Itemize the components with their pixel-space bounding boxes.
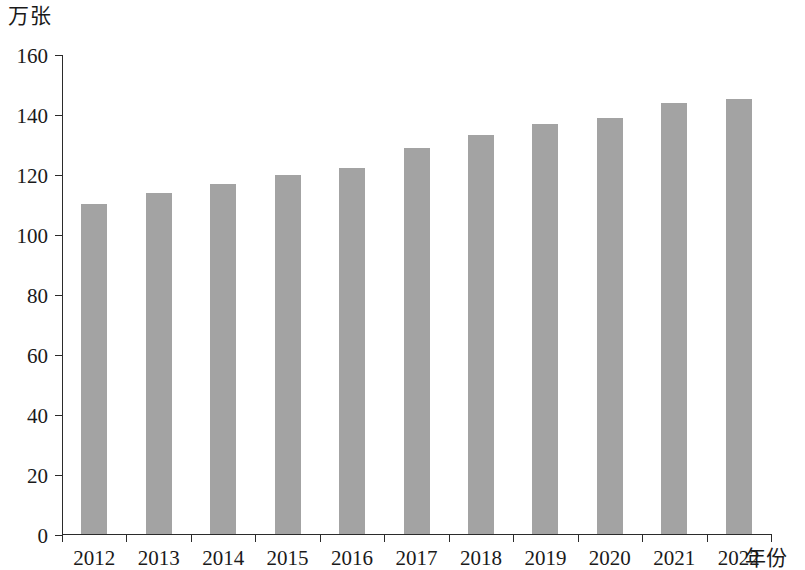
x-axis-tick — [707, 535, 708, 542]
x-axis-tick — [255, 535, 256, 542]
y-axis-tick-label: 140 — [17, 105, 49, 126]
x-axis-tick — [126, 535, 127, 542]
bar-2015 — [275, 175, 301, 534]
x-axis-tick — [62, 535, 63, 542]
bar-chart: 万张 020406080100120140160 201220132014201… — [0, 0, 805, 570]
bar-2014 — [210, 184, 236, 534]
y-axis-tick-label: 100 — [17, 225, 49, 246]
x-axis-label-2021: 2021 — [653, 548, 695, 569]
bar-2012 — [81, 204, 107, 534]
y-axis-unit-label: 万张 — [8, 6, 51, 27]
bar-2017 — [404, 148, 430, 534]
bar-2013 — [146, 193, 172, 534]
x-axis-label-2020: 2020 — [589, 548, 631, 569]
x-axis-label-2014: 2014 — [202, 548, 244, 569]
y-axis-tick: 40 — [55, 415, 62, 416]
x-axis-label-2015: 2015 — [267, 548, 309, 569]
y-axis-tick: 160 — [55, 55, 62, 56]
y-axis-tick-label: 60 — [27, 345, 48, 366]
x-axis-tick — [642, 535, 643, 542]
x-axis-label-2019: 2019 — [524, 548, 566, 569]
y-axis-tick: 0 — [55, 535, 62, 536]
y-axis-line — [62, 55, 63, 536]
bar-2020 — [597, 118, 623, 534]
y-axis-tick-label: 20 — [27, 465, 48, 486]
y-axis-tick: 60 — [55, 355, 62, 356]
x-axis-title-label: 年份 — [745, 548, 787, 569]
x-axis-tick — [191, 535, 192, 542]
x-axis-label-2018: 2018 — [460, 548, 502, 569]
x-axis-tick — [384, 535, 385, 542]
x-axis-tick — [771, 535, 772, 542]
bar-2021 — [661, 103, 687, 534]
bar-2018 — [468, 135, 494, 534]
y-axis-tick-label: 0 — [38, 525, 49, 546]
x-axis-line — [62, 534, 772, 535]
y-axis-tick: 80 — [55, 295, 62, 296]
bar-2016 — [339, 168, 365, 534]
y-axis-tick-label: 40 — [27, 405, 48, 426]
y-axis-tick-label: 160 — [17, 45, 49, 66]
y-axis-tick-label: 80 — [27, 285, 48, 306]
y-axis-tick: 100 — [55, 235, 62, 236]
x-axis-tick — [320, 535, 321, 542]
y-axis-tick-label: 120 — [17, 165, 49, 186]
x-axis-label-2012: 2012 — [73, 548, 115, 569]
x-axis-tick — [513, 535, 514, 542]
bar-2022 — [726, 99, 752, 534]
x-axis-label-2016: 2016 — [331, 548, 373, 569]
x-axis-label-2013: 2013 — [138, 548, 180, 569]
y-axis-tick: 20 — [55, 475, 62, 476]
x-axis-tick — [449, 535, 450, 542]
y-axis-tick: 120 — [55, 175, 62, 176]
x-axis-tick — [578, 535, 579, 542]
y-axis-tick: 140 — [55, 115, 62, 116]
x-axis-label-2017: 2017 — [396, 548, 438, 569]
plot-area: 020406080100120140160 — [62, 55, 771, 535]
bar-2019 — [532, 124, 558, 534]
